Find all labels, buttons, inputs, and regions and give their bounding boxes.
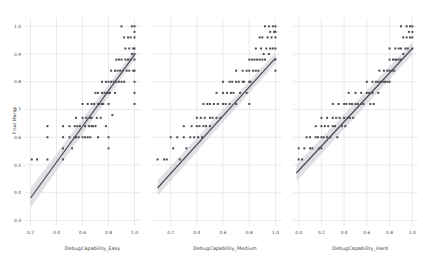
y-tick-label: 0.8 xyxy=(14,79,21,84)
y-tick-label: 0.9 xyxy=(14,52,21,57)
x-tick-label: 0.6 xyxy=(79,230,86,235)
x-axis-label-hard: DebugCapability_Hard xyxy=(285,246,423,251)
panel-medium: 0.20.40.60.81.0 DebugCapability_Medium xyxy=(145,0,285,260)
x-axis-label-medium: DebugCapability_Medium xyxy=(145,246,295,251)
plot-area-medium: 0.20.40.60.81.0 xyxy=(145,0,285,260)
x-tick-label: 0.2 xyxy=(27,230,34,235)
panel-easy: 0.20.40.60.81.00.30.40.50.60.70.80.91.0 … xyxy=(0,0,145,260)
x-tick-label: 0.4 xyxy=(341,230,348,235)
x-tick-label: 0.2 xyxy=(167,230,174,235)
x-tick-label: 1.0 xyxy=(272,230,279,235)
panel-hard: 0.00.20.40.60.81.0 DebugCapability_Hard xyxy=(285,0,423,260)
x-tick-label: 0.0 xyxy=(295,230,302,235)
x-tick-label: 0.4 xyxy=(53,230,60,235)
x-tick-label: 0.4 xyxy=(193,230,200,235)
plot-area-easy: 0.20.40.60.81.00.30.40.50.60.70.80.91.0 xyxy=(0,0,145,260)
y-tick-label: 0.4 xyxy=(14,190,21,195)
y-axis-label: Final Marks xyxy=(12,91,17,151)
x-tick-label: 0.2 xyxy=(318,230,325,235)
y-tick-label: 0.5 xyxy=(14,163,21,168)
x-tick-label: 0.8 xyxy=(246,230,253,235)
x-tick-label: 1.0 xyxy=(131,230,138,235)
x-tick-label: 0.6 xyxy=(363,230,370,235)
x-tick-label: 0.8 xyxy=(105,230,112,235)
y-tick-label: 1.0 xyxy=(14,24,21,29)
y-tick-label: 0.3 xyxy=(14,218,21,223)
scatter-figure: 0.20.40.60.81.00.30.40.50.60.70.80.91.0 … xyxy=(0,0,423,260)
plot-area-hard: 0.00.20.40.60.81.0 xyxy=(285,0,423,260)
x-axis-label-easy: DebugCapability_Easy xyxy=(0,246,165,251)
x-tick-label: 0.8 xyxy=(386,230,393,235)
x-tick-label: 1.0 xyxy=(409,230,416,235)
x-tick-label: 0.6 xyxy=(220,230,227,235)
